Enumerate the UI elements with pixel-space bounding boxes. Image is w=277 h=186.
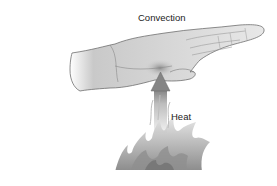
heat-label: Heat xyxy=(171,111,191,122)
illustration xyxy=(0,0,277,186)
hand-icon xyxy=(70,25,264,91)
convection-diagram: Convection Heat xyxy=(0,0,277,186)
convection-label: Convection xyxy=(138,12,186,23)
